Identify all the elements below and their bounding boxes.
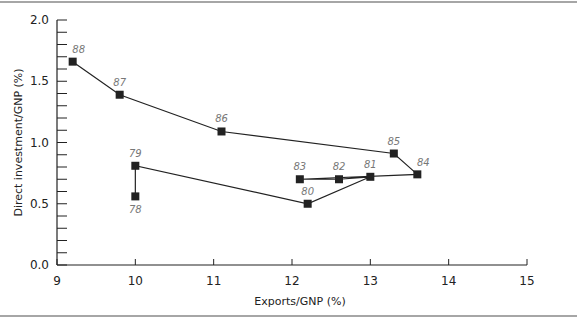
data-point-marker — [390, 150, 398, 158]
data-point-marker — [296, 175, 304, 183]
y-tick-label: 1.5 — [30, 74, 49, 88]
y-tick-label: 0.5 — [30, 197, 49, 211]
x-tick-label: 13 — [363, 274, 378, 288]
data-point-marker — [413, 170, 421, 178]
chart-container: 0.00.51.01.52.09101112131415Direct inves… — [0, 0, 577, 332]
data-point-marker — [304, 200, 312, 208]
y-axis-title: Direct investment/GNP (%) — [12, 68, 25, 216]
data-point-label: 86 — [215, 113, 228, 124]
data-point-label: 81 — [364, 159, 377, 170]
data-point-marker — [69, 58, 77, 66]
data-point-marker — [131, 162, 139, 170]
data-point-marker — [366, 173, 374, 181]
data-point-label: 85 — [387, 136, 400, 147]
data-point-label: 83 — [293, 161, 306, 172]
x-tick-label: 10 — [128, 274, 143, 288]
data-point-label: 78 — [129, 204, 142, 215]
data-point-label: 80 — [301, 186, 314, 197]
x-tick-label: 14 — [441, 274, 456, 288]
data-point-label: 79 — [129, 148, 142, 159]
x-axis-title: Exports/GNP (%) — [0, 295, 577, 308]
y-tick-label: 1.0 — [30, 136, 49, 150]
data-point-label: 87 — [113, 77, 126, 88]
data-point-label: 82 — [333, 161, 346, 172]
y-tick-label: 2.0 — [30, 13, 49, 27]
x-tick-label: 12 — [284, 274, 299, 288]
data-point-label: 88 — [72, 44, 85, 55]
data-point-marker — [116, 91, 124, 99]
data-point-marker — [218, 127, 226, 135]
x-tick-label: 9 — [53, 274, 61, 288]
x-tick-label: 15 — [519, 274, 534, 288]
data-point-marker — [131, 192, 139, 200]
data-point-label: 84 — [417, 157, 430, 168]
y-tick-label: 0.0 — [30, 258, 49, 272]
x-tick-label: 11 — [206, 274, 221, 288]
data-point-marker — [335, 175, 343, 183]
scatter-line-chart: 0.00.51.01.52.09101112131415Direct inves… — [0, 0, 577, 332]
